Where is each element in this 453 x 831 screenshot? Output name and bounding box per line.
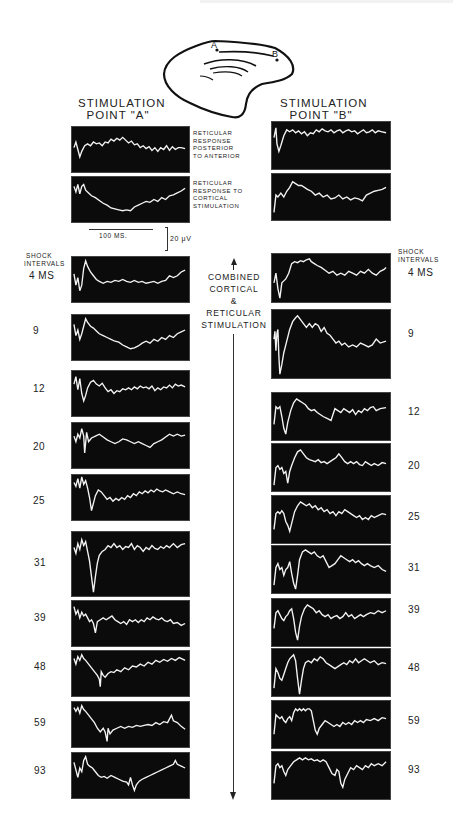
label-line: RETICULAR [193,130,240,138]
interval-right-59: 59 [408,715,420,726]
combined-stimulation-label: COMBINED CORTICAL & RETICULAR STIMULATIO… [197,271,271,331]
point-a-label: A [211,40,217,50]
interval-right-20: 20 [408,460,420,471]
label-line: RESPONSE [193,138,240,146]
center-line: RETICULAR [197,307,271,319]
trace-panel-b-31ms [271,545,391,594]
interval-right-4ms: 4 MS [408,267,433,278]
trace-panel-b-12ms [271,392,391,441]
heading-a-line2: POINT "A" [78,109,158,121]
center-line: CORTICAL [197,283,271,295]
arrow-up-shaft [233,264,234,270]
interval-left-20: 20 [33,441,45,452]
interval-right-93: 93 [408,764,420,775]
trace-panel-a-31ms [71,531,190,597]
interval-left-4ms: 4 MS [29,270,54,281]
trace-panel-b-reticular-posterior [271,121,391,170]
trace-panel-a-reticular-cortical [71,176,190,223]
interval-left-12: 12 [33,383,45,394]
trace-panel-b-25ms [271,495,391,544]
heading-a-line1: STIMULATION [78,97,158,109]
trace-panel-a-4ms [71,256,190,303]
scan-edge [200,0,453,3]
interval-right-48: 48 [408,662,420,673]
trace-panel-a-39ms [71,600,190,647]
center-line: STIMULATION [197,319,271,331]
heading-point-b: STIMULATION POINT "B" [280,97,362,121]
shock-line1: SHOCK [24,252,65,260]
shock-intervals-label-left: SHOCK INTERVALS [24,252,65,267]
brain-diagram: A B [160,36,300,124]
label-line: STIMULATION [193,203,243,211]
shock-line1: SHOCK [398,248,439,256]
trace-panel-a-reticular-posterior [71,126,190,173]
label-line: RESPONSE TO [193,188,243,196]
shock-intervals-label-right: SHOCK INTERVALS [398,248,439,263]
label-line: POSTERIOR [193,145,240,153]
shock-line2: INTERVALS [24,260,65,268]
center-line: COMBINED [197,271,271,283]
interval-left-48: 48 [34,661,46,672]
interval-left-39: 39 [34,612,46,623]
label-line: TO ANTERIOR [193,153,240,161]
arrow-up-icon [231,258,237,265]
heading-point-a: STIMULATION POINT "A" [78,97,158,121]
trace-panel-a-48ms [71,650,190,697]
trace-panel-b-4ms [271,253,391,303]
shock-line2: INTERVALS [398,256,439,264]
arrow-down-shaft [233,334,234,792]
interval-left-59: 59 [34,717,46,728]
trace-panel-b-59ms [271,700,391,749]
trace-panel-a-93ms [71,752,190,799]
trace-panel-b-93ms [271,751,391,800]
trace-panel-a-25ms [71,474,190,521]
interval-right-25: 25 [408,511,420,522]
label-line: RETICULAR [193,180,243,188]
trace-panel-a-9ms [71,314,190,361]
voltage-scale-bracket [165,227,168,251]
interval-left-25: 25 [33,495,45,506]
time-scale-line [89,229,153,230]
trace-panel-a-20ms [71,422,190,469]
trace-label-posterior-to-anterior: RETICULAR RESPONSE POSTERIOR TO ANTERIOR [193,130,240,160]
point-b-label: B [272,49,278,59]
trace-panel-b-reticular-cortical [271,173,391,221]
center-line: & [197,295,271,307]
heading-b-line1: STIMULATION [280,97,362,109]
interval-right-12: 12 [408,406,420,417]
interval-right-31: 31 [408,562,420,573]
time-scale-label: 100 MS. [99,232,127,240]
interval-right-39: 39 [408,604,420,615]
trace-label-cortical-stimulation: RETICULAR RESPONSE TO CORTICAL STIMULATI… [193,180,243,210]
trace-panel-a-59ms [71,701,190,748]
trace-panel-a-12ms [71,370,190,417]
interval-left-93: 93 [34,765,46,776]
interval-left-9: 9 [33,325,39,336]
trace-panel-b-48ms [271,648,391,697]
interval-right-9: 9 [408,328,414,339]
trace-panel-b-9ms [271,309,391,379]
label-line: CORTICAL [193,195,243,203]
trace-panel-b-20ms [271,443,391,492]
arrow-down-icon [230,792,236,800]
interval-left-31: 31 [34,557,46,568]
voltage-scale-label: 20 μV [170,235,191,243]
trace-panel-b-39ms [271,598,391,647]
heading-b-line2: POINT "B" [280,109,362,121]
